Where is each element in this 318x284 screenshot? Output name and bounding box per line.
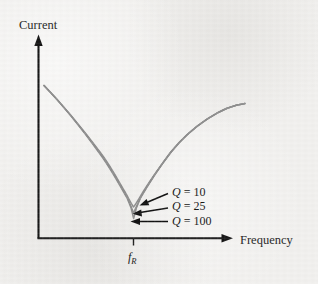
pointer-arrowhead-q100-icon xyxy=(131,218,141,225)
x-axis-tick-label-fr: fR xyxy=(128,250,137,266)
y-axis-label: Current xyxy=(19,18,58,32)
x-axis-arrowhead-icon xyxy=(222,234,234,243)
curve-q10 xyxy=(44,86,245,208)
fr-subscript: R xyxy=(130,256,137,266)
pointer-line-q10 xyxy=(146,194,169,204)
legend-label-q10: Q = 10 xyxy=(172,185,205,199)
legend-label-q100: Q = 100 xyxy=(172,214,211,228)
x-axis-label: Frequency xyxy=(240,233,294,247)
figure-canvas: Current Frequency fR Q = 10 Q = 25 Q = 1… xyxy=(0,0,318,284)
pointer-line-q25 xyxy=(140,208,168,213)
pointer-arrowhead-q10-icon xyxy=(140,199,150,206)
curve-q100 xyxy=(44,86,245,219)
curve-q25 xyxy=(44,86,245,214)
curves-group xyxy=(44,86,245,219)
resonance-current-vs-frequency-chart: Current Frequency fR Q = 10 Q = 25 Q = 1… xyxy=(0,0,318,284)
y-axis-arrowhead-icon xyxy=(34,35,42,47)
legend-label-q25: Q = 25 xyxy=(172,199,205,213)
